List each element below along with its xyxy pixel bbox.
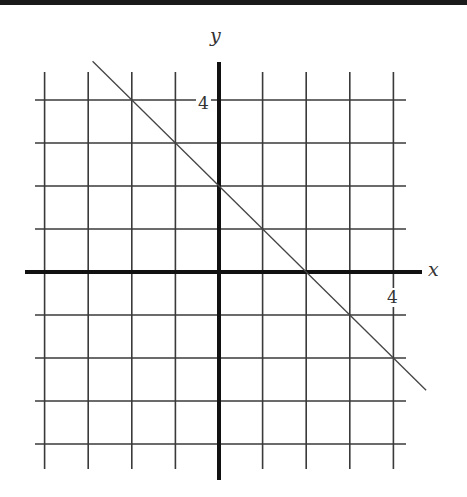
axes bbox=[25, 62, 422, 480]
x-tick-label-4: 4 bbox=[386, 288, 399, 307]
y-tick-label-4: 4 bbox=[196, 95, 211, 112]
x-axis-label: x bbox=[428, 260, 439, 279]
plotted-line bbox=[93, 61, 427, 390]
coordinate-plane bbox=[0, 0, 467, 497]
line-y-equals-negative-x-plus-2 bbox=[93, 61, 427, 390]
y-axis-label: y bbox=[210, 26, 221, 45]
